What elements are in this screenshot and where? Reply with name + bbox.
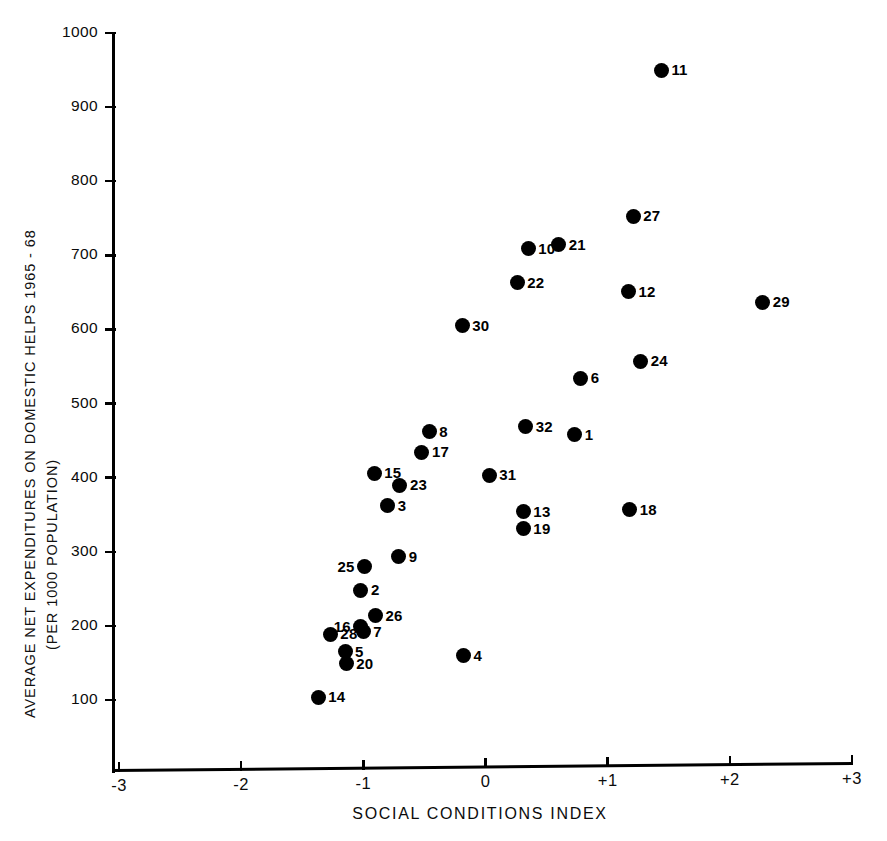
y-tick-mark xyxy=(105,254,116,256)
data-point-label: 17 xyxy=(432,443,449,460)
data-point xyxy=(391,549,406,564)
x-tick-mark xyxy=(484,758,486,768)
x-tick-label: -1 xyxy=(340,774,386,793)
y-tick-label: 700 xyxy=(44,245,98,263)
y-tick-mark xyxy=(105,551,116,553)
x-axis-label: SOCIAL CONDITIONS INDEX xyxy=(280,805,680,823)
x-tick-label: 0 xyxy=(463,772,509,791)
data-point xyxy=(510,275,525,290)
data-point-label: 9 xyxy=(409,548,418,565)
data-point-label: 1 xyxy=(585,426,594,443)
data-point xyxy=(339,656,354,671)
data-point-label: 30 xyxy=(472,317,489,334)
data-point xyxy=(551,237,566,252)
data-point-label: 11 xyxy=(671,61,687,78)
data-point xyxy=(482,468,497,483)
data-point xyxy=(755,295,770,310)
y-tick-mark xyxy=(105,180,116,182)
data-point xyxy=(323,627,338,642)
data-point-label: 18 xyxy=(640,501,657,518)
data-point-label: 22 xyxy=(527,274,544,291)
y-tick-label: 400 xyxy=(44,468,98,486)
data-point-label: 23 xyxy=(410,476,427,493)
data-point xyxy=(573,371,588,386)
y-tick-label: 100 xyxy=(44,690,98,708)
y-tick-label: 600 xyxy=(44,319,98,337)
data-point-label: 6 xyxy=(591,369,600,386)
data-point xyxy=(626,209,641,224)
data-point xyxy=(654,63,669,78)
x-tick-mark xyxy=(851,755,853,765)
data-point xyxy=(311,690,326,705)
data-point xyxy=(622,502,637,517)
data-point xyxy=(521,241,536,256)
data-point-label: 12 xyxy=(638,283,655,300)
data-point-label: 21 xyxy=(569,236,586,253)
data-point xyxy=(357,559,372,574)
y-axis-label-line-1: AVERAGE NET EXPENDITURES ON DOMESTIC HEL… xyxy=(22,229,38,718)
x-tick-label: -2 xyxy=(218,775,264,794)
data-point xyxy=(368,608,383,623)
y-tick-mark xyxy=(105,328,116,330)
data-point-label: 27 xyxy=(643,207,660,224)
data-point xyxy=(455,318,470,333)
data-point-label: 29 xyxy=(773,293,790,310)
data-point-label: 24 xyxy=(651,352,668,369)
x-tick-mark xyxy=(606,757,608,767)
data-point-label: 32 xyxy=(536,418,553,435)
data-point xyxy=(516,521,531,536)
y-tick-label: 1000 xyxy=(44,23,98,41)
y-tick-label: 200 xyxy=(44,616,98,634)
data-point-label: 20 xyxy=(356,655,373,672)
y-axis-label: AVERAGE NET EXPENDITURES ON DOMESTIC HEL… xyxy=(0,0,48,760)
data-point xyxy=(518,419,533,434)
x-tick-mark xyxy=(729,756,731,766)
y-tick-label: 900 xyxy=(44,97,98,115)
data-point-label: 28 xyxy=(340,625,357,642)
y-tick-mark xyxy=(105,402,116,404)
data-point-label: 19 xyxy=(533,520,550,537)
data-point xyxy=(567,427,582,442)
data-point xyxy=(456,648,471,663)
data-point xyxy=(392,478,407,493)
data-point-label: 26 xyxy=(386,607,403,624)
y-tick-mark xyxy=(105,625,116,627)
data-point xyxy=(633,354,648,369)
x-tick-mark xyxy=(240,761,242,771)
y-tick-mark xyxy=(105,32,116,34)
data-point-label: 31 xyxy=(499,466,516,483)
y-tick-mark xyxy=(105,699,116,701)
y-tick-mark xyxy=(105,476,116,478)
data-point xyxy=(353,583,368,598)
data-point xyxy=(380,498,395,513)
data-point-label: 2 xyxy=(371,581,380,598)
y-tick-label: 800 xyxy=(44,171,98,189)
x-tick-label: -3 xyxy=(96,776,142,795)
x-tick-mark xyxy=(118,762,120,772)
x-tick-mark xyxy=(362,760,364,770)
data-point xyxy=(516,504,531,519)
y-tick-mark xyxy=(105,106,116,108)
data-point-label: 25 xyxy=(321,558,355,575)
data-point xyxy=(621,284,636,299)
data-point-label: 8 xyxy=(439,423,448,440)
data-point-label: 14 xyxy=(328,688,345,705)
y-tick-label: 300 xyxy=(44,542,98,560)
data-point xyxy=(367,466,382,481)
scatter-plot-figure: AVERAGE NET EXPENDITURES ON DOMESTIC HEL… xyxy=(0,0,887,841)
data-point xyxy=(422,424,437,439)
x-tick-label: +2 xyxy=(707,770,753,789)
data-point-label: 13 xyxy=(533,503,550,520)
data-point-label: 3 xyxy=(398,497,407,514)
data-point-label: 4 xyxy=(474,647,483,664)
y-tick-label: 500 xyxy=(44,394,98,412)
data-point-label: 7 xyxy=(373,623,382,640)
x-tick-label: +1 xyxy=(585,771,631,790)
x-tick-label: +3 xyxy=(829,769,875,788)
data-point xyxy=(414,445,429,460)
